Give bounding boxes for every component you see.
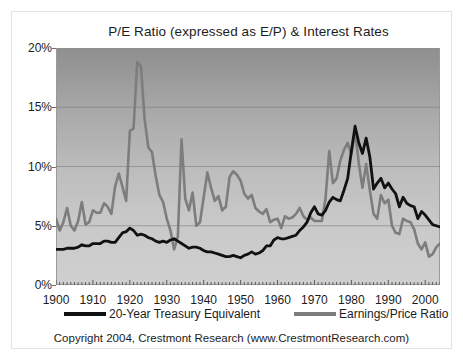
y-axis-label: 20%: [6, 41, 52, 55]
chart-legend: 20-Year Treasury Equivalent Earnings/Pri…: [56, 307, 440, 327]
y-axis: 0%5%10%15%20%: [0, 48, 52, 285]
legend-swatch-treasury: [64, 312, 106, 316]
x-axis-label: 1910: [80, 293, 107, 307]
y-axis-label: 5%: [6, 219, 52, 233]
y-axis-label: 10%: [6, 160, 52, 174]
x-axis-label: 1940: [190, 293, 217, 307]
y-axis-label: 15%: [6, 100, 52, 114]
legend-item-treasury: 20-Year Treasury Equivalent: [64, 307, 260, 321]
copyright-note: Copyright 2004, Crestmont Research (www.…: [11, 332, 452, 344]
legend-label-earnings-price: Earnings/Price Ratio: [339, 307, 448, 321]
x-minor-ticks: [56, 280, 440, 285]
x-axis-label: 1990: [375, 293, 402, 307]
chart-figure: P/E Ratio (expressed as E/P) & Interest …: [0, 0, 463, 360]
x-axis-label: 1970: [301, 293, 328, 307]
x-axis-label: 1980: [338, 293, 365, 307]
x-axis: 1900191019201930194019501960197019801990…: [56, 287, 440, 309]
x-axis-label: 1960: [264, 293, 291, 307]
y-axis-label: 0%: [6, 278, 52, 292]
plot-area: [56, 48, 440, 285]
legend-swatch-earnings-price: [294, 312, 336, 316]
plot-svg: [56, 48, 440, 285]
x-axis-label: 1950: [227, 293, 254, 307]
chart-title: P/E Ratio (expressed as E/P) & Interest …: [56, 24, 441, 39]
y-axis-tick: [52, 285, 56, 286]
x-axis-label: 1900: [43, 293, 70, 307]
legend-item-earnings-price: Earnings/Price Ratio: [294, 307, 448, 321]
x-axis-label: 2000: [412, 293, 439, 307]
legend-label-treasury: 20-Year Treasury Equivalent: [109, 307, 260, 321]
x-axis-label: 1930: [153, 293, 180, 307]
series-line-earnings-price-ratio: [56, 62, 440, 256]
x-axis-label: 1920: [116, 293, 143, 307]
